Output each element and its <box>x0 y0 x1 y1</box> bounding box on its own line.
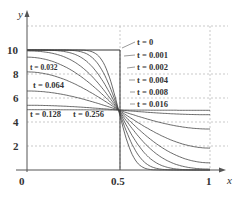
y-tick-2: 2 <box>13 140 19 152</box>
y-tick-8: 8 <box>13 68 19 80</box>
gridlines <box>27 26 228 170</box>
y-tick-4: 4 <box>13 116 19 128</box>
label-t004: t = 0.004 <box>137 75 169 85</box>
curve-labels-right: t = 0 t = 0.001 t = 0.002 t = 0.004 t = … <box>137 37 169 109</box>
y-tick-10: 10 <box>7 44 19 56</box>
x-axis-label: x <box>226 174 232 186</box>
label-leaders <box>122 42 135 104</box>
y-axis-arrow-icon <box>25 10 30 17</box>
heat-diffusion-chart: y x 0 0.5 1 10 8 6 4 2 t = 0 t = 0.001 t… <box>0 0 245 202</box>
y-axis-label: y <box>17 8 23 20</box>
axes <box>16 14 222 172</box>
x-tick-1: 1 <box>206 175 212 187</box>
label-t001: t = 0.001 <box>137 50 168 60</box>
label-t002: t = 0.002 <box>137 62 168 72</box>
label-t064: t = 0.064 <box>33 80 65 90</box>
x-axis-arrow-icon <box>219 168 226 173</box>
x-tick-0-5: 0.5 <box>111 175 125 187</box>
x-tick-0: 0 <box>19 175 25 187</box>
y-tick-6: 6 <box>13 92 19 104</box>
label-t008: t = 0.008 <box>137 87 168 97</box>
label-t016: t = 0.016 <box>137 99 168 109</box>
label-t256: t = 0.256 <box>73 109 104 119</box>
label-t032: t = 0.032 <box>30 63 58 72</box>
label-t128: t = 0.128 <box>30 109 61 119</box>
label-t0: t = 0 <box>137 37 153 47</box>
curve-labels-left: t = 0.032 t = 0.064 t = 0.128 t = 0.256 <box>30 63 104 119</box>
